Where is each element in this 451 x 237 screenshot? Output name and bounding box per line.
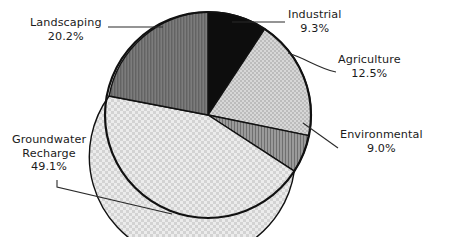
pie-label-industrial-value: 9.3%: [288, 22, 341, 36]
pie-label-environmental-name: Environmental: [340, 128, 423, 141]
pie-label-groundwater-recharge-name: Groundwater: [12, 133, 86, 146]
pie-label-groundwater-recharge-value: 49.1%: [12, 160, 86, 174]
pie-label-agriculture-value: 12.5%: [338, 67, 401, 81]
pie-label-agriculture-name: Agriculture: [338, 53, 401, 66]
pie-label-industrial-name: Industrial: [288, 8, 341, 21]
pie-label-industrial: Industrial 9.3%: [288, 8, 341, 35]
pie-label-environmental-value: 9.0%: [340, 142, 423, 156]
pie-label-landscaping-value: 20.2%: [30, 30, 102, 44]
pie-label-landscaping-name: Landscaping: [30, 16, 102, 29]
pie-chart: Industrial 9.3% Agriculture 12.5% Enviro…: [0, 0, 451, 237]
pie-label-groundwater-recharge-name-line2: Recharge: [12, 147, 86, 161]
pie-label-agriculture: Agriculture 12.5%: [338, 53, 401, 80]
pie-label-environmental: Environmental 9.0%: [340, 128, 423, 155]
pie-label-landscaping: Landscaping 20.2%: [30, 16, 102, 43]
pie-label-groundwater-recharge: Groundwater Recharge 49.1%: [12, 133, 86, 174]
